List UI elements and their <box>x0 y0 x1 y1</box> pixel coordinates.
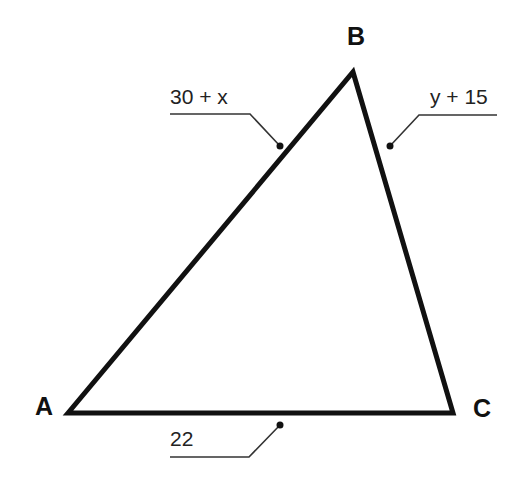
vertex-c-label: C <box>473 394 491 422</box>
side-bc-label: y + 15 <box>430 85 488 108</box>
vertex-a-label: A <box>35 392 53 420</box>
vertex-b-label: B <box>347 22 365 50</box>
triangle-abc <box>68 72 453 413</box>
side-ab-annotation: 30 + x <box>170 85 284 150</box>
side-ab-label: 30 + x <box>170 85 228 108</box>
side-ac-label: 22 <box>170 427 193 450</box>
triangle-diagram: 30 + x y + 15 22 B A C <box>0 0 518 482</box>
side-bc-annotation: y + 15 <box>387 85 498 150</box>
side-ac-annotation: 22 <box>170 422 284 458</box>
diagram-canvas: 30 + x y + 15 22 B A C <box>0 0 518 482</box>
